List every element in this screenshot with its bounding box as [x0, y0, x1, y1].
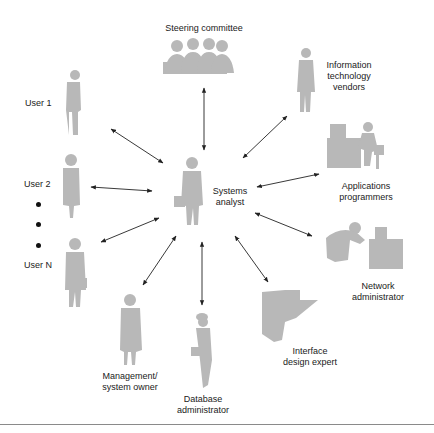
user-1-label: User 1: [25, 98, 65, 109]
systems-analyst-label: Systems analyst: [206, 186, 254, 208]
network-administrator-label: Network administrator: [338, 281, 418, 303]
arrow-management-system-owner: [143, 236, 176, 285]
standing-man-icon: [297, 48, 315, 112]
it-vendors-label: Information technology vendors: [316, 60, 382, 93]
standing-man-icon: [66, 70, 81, 135]
arrows: [91, 88, 319, 305]
person-at-terminal-icon: [262, 290, 318, 342]
standing-woman-icon: [63, 154, 80, 218]
applications-programmers-label: Applications programmers: [328, 181, 404, 203]
arrow-it-vendors: [243, 116, 287, 158]
arrow-interface-design-expert: [235, 236, 268, 282]
ellipsis-dot: [36, 222, 41, 227]
person-at-workstation-icon: [326, 222, 403, 269]
woman-with-briefcase-icon: [191, 313, 212, 388]
arrow-user-1: [111, 129, 163, 163]
standing-woman-icon: [120, 294, 142, 365]
interface-design-expert-label: Interface design expert: [268, 346, 352, 368]
arrow-user-n: [101, 218, 159, 242]
bottom-divider: [0, 424, 434, 425]
man-with-briefcase-icon: [174, 157, 203, 225]
group-of-people-icon: [163, 38, 234, 74]
arrow-user-2: [91, 187, 152, 191]
management-system-owner-label: Management/ system owner: [94, 371, 166, 393]
user-2-label: User 2: [24, 179, 64, 190]
arrow-applications-programmers: [257, 174, 319, 187]
steering-committee-label: Steering committee: [148, 23, 260, 34]
arrow-network-administrator: [255, 213, 312, 236]
database-administrator-label: Database administrator: [170, 394, 236, 416]
user-n-label: User N: [24, 260, 64, 271]
stakeholder-diagram: Steering committee Information technolog…: [0, 0, 434, 433]
ellipsis-dot: [36, 202, 41, 207]
ellipsis-dot: [36, 243, 41, 248]
man-with-briefcase-icon: [65, 238, 87, 307]
person-at-computer-icon: [327, 122, 384, 169]
